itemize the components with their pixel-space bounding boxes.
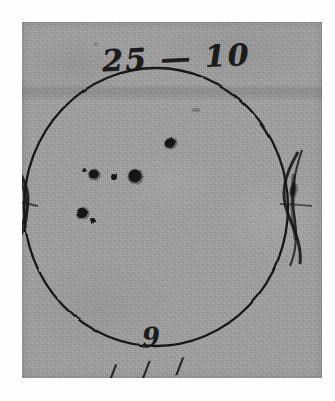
scan-canvas: 25 — 10 9 / / / [0, 0, 335, 401]
paper-sheet: 25 — 10 9 / / / [22, 22, 322, 378]
solar-disk-outline [24, 68, 288, 346]
sunspot-spot-4 [86, 167, 102, 182]
solar-disk-outline-echo [24, 68, 288, 346]
sunspot-spot-1 [162, 135, 180, 152]
sunspot-umbra [90, 218, 96, 224]
solar-disk-drawing [22, 22, 322, 378]
sunspot-umbra [111, 174, 117, 180]
sunspot-spot-5 [82, 168, 86, 172]
sunspot-spot-8 [288, 182, 298, 200]
right-limb-cross-icon [280, 150, 312, 266]
paper-speck-upper-right [192, 108, 201, 112]
sunspot-spot-2 [126, 167, 145, 186]
sunspot-umbra [82, 168, 86, 172]
paper-speck-upper-left [94, 43, 98, 46]
sunspot-spot-3 [111, 174, 117, 180]
sunspot-spot-6 [74, 205, 91, 221]
sunspot-layer [74, 135, 298, 224]
sunspot-spot-7 [90, 218, 96, 224]
disk-outline-group [24, 68, 288, 346]
